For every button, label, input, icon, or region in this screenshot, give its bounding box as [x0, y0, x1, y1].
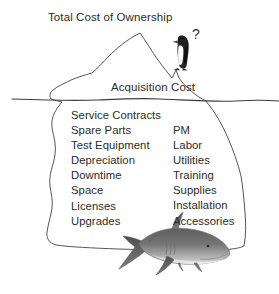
hidden-cost-item: Accessories — [173, 214, 234, 229]
page-title: Total Cost of Ownership — [48, 12, 172, 24]
hidden-cost-item: Test Equipment — [71, 138, 161, 153]
hidden-cost-item: Spare Parts — [71, 123, 161, 138]
penguin-icon — [173, 35, 189, 70]
hidden-costs-right-column: PMLaborUtilitiesTrainingSuppliesInstalla… — [173, 123, 234, 229]
hidden-costs-left-column: Service ContractsSpare PartsTest Equipme… — [71, 108, 161, 229]
acquisition-cost-label: Acquisition Cost — [111, 82, 195, 94]
question-mark-label: ? — [192, 27, 200, 41]
hidden-cost-item: Installation — [173, 198, 234, 213]
hidden-cost-item: Upgrades — [71, 214, 161, 229]
hidden-cost-item: Space — [71, 183, 161, 198]
hidden-cost-item: Utilities — [173, 153, 234, 168]
hidden-cost-item: Depreciation — [71, 153, 161, 168]
hidden-cost-item: Training — [173, 168, 234, 183]
hidden-cost-item: Labor — [173, 138, 234, 153]
hidden-cost-item: Supplies — [173, 183, 234, 198]
hidden-cost-item: PM — [173, 123, 234, 138]
tco-iceberg-diagram: Total Cost of Ownership Acquisition Cost… — [0, 0, 279, 294]
hidden-cost-item: Downtime — [71, 168, 161, 183]
hidden-cost-item: Licenses — [71, 199, 161, 214]
hidden-cost-item: Service Contracts — [71, 108, 161, 123]
